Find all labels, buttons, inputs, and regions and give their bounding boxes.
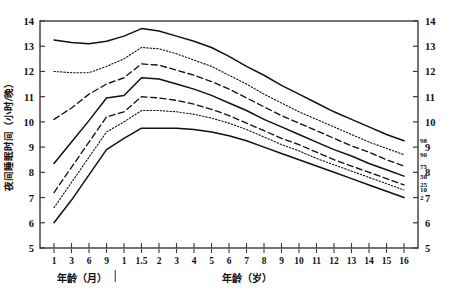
y-tick-label-right: 14: [425, 16, 436, 27]
x-tick-label: 6: [87, 256, 92, 266]
y-tick-label-left: 7: [29, 193, 34, 204]
percentile-label-98: 98: [420, 137, 428, 145]
xaxis-title-months: 年龄（月）: [57, 272, 107, 284]
x-tick-label: 3: [69, 256, 74, 266]
xaxis-title-years: 年龄（岁）: [222, 272, 272, 284]
x-tick-label: 7: [244, 256, 249, 266]
percentile-label-50: 50: [420, 173, 428, 181]
y-tick-label-left: 9: [29, 142, 34, 153]
x-tick-label: 3: [174, 256, 179, 266]
y-tick-label-left: 14: [24, 16, 35, 27]
x-tick-label: 12: [329, 256, 339, 266]
y-tick-label-right: 10: [425, 117, 436, 128]
x-tick-label: 4: [192, 256, 197, 266]
curve-p50: [54, 78, 404, 176]
x-tick-label: 6: [227, 256, 232, 266]
x-tick-label: 14: [364, 256, 374, 266]
x-tick-label: 2: [157, 256, 162, 266]
percentile-curves: [54, 29, 404, 223]
percentile-label-75: 75: [420, 163, 428, 171]
y-tick-label-left: 6: [29, 218, 34, 229]
x-tick-label: 11: [312, 256, 321, 266]
y-tick-label-right: 12: [425, 66, 436, 77]
y-tick-label-left: 10: [24, 117, 35, 128]
sleep-percentile-chart: 567891011121314 567891011121314 136911.5…: [0, 0, 453, 299]
x-tick-label: 8: [262, 256, 267, 266]
y-tick-label-right: 13: [425, 41, 436, 52]
y-tick-label-right: 6: [425, 218, 430, 229]
x-tick-label: 1: [122, 256, 127, 266]
curve-p10: [54, 111, 404, 208]
x-tick-label: 1: [52, 256, 57, 266]
plot-frame: [40, 21, 418, 248]
x-tick-label: 13: [347, 256, 357, 266]
x-tick-label: 5: [209, 256, 214, 266]
axis-titles: 年龄（月）年龄（岁）夜间睡眠时间（小时/晚）: [3, 78, 272, 284]
x-tick-label: 9: [279, 256, 284, 266]
percentile-label-90: 90: [420, 151, 428, 159]
y-axis-left: 567891011121314: [24, 16, 46, 254]
yaxis-title: 夜间睡眠时间（小时/晚）: [3, 78, 14, 192]
y-tick-label-left: 5: [29, 243, 34, 254]
x-tick-label: 16: [399, 256, 409, 266]
y-axis-right: 567891011121314: [413, 16, 436, 254]
y-tick-label-left: 8: [29, 167, 34, 178]
x-tick-label: 15: [382, 256, 392, 266]
curve-p90: [54, 47, 404, 154]
y-tick-label-right: 11: [425, 92, 435, 103]
y-tick-label-right: 5: [425, 243, 430, 254]
percentile-label-2: 2: [420, 194, 424, 202]
y-tick-label-left: 11: [24, 92, 34, 103]
x-tick-label: 9: [104, 256, 109, 266]
y-tick-label-left: 12: [24, 66, 35, 77]
y-tick-label-left: 13: [24, 41, 35, 52]
x-tick-label: 10: [294, 256, 304, 266]
x-tick-label: 1.5: [136, 256, 148, 266]
curve-p2: [54, 128, 404, 223]
chart-svg: 567891011121314 567891011121314 136911.5…: [0, 0, 453, 299]
plot-border: [40, 21, 418, 248]
